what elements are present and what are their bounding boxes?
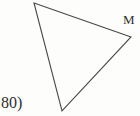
geometry-figure: M 80) (0, 0, 140, 116)
vertex-label-m: M (123, 13, 135, 26)
triangle-shape (34, 3, 131, 111)
problem-number: 80) (1, 95, 22, 111)
